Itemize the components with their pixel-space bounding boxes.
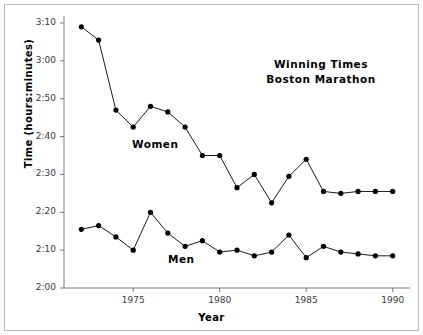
- data-point-women: [79, 24, 84, 29]
- data-point-women: [165, 109, 170, 114]
- data-point-men: [373, 253, 378, 258]
- data-point-women: [373, 189, 378, 194]
- data-point-men: [79, 227, 84, 232]
- chart-title-line-2: Boston Marathon: [246, 72, 396, 87]
- x-tick-label: 1990: [373, 295, 413, 305]
- y-tick-label: 2:40: [22, 131, 56, 141]
- data-point-men: [304, 255, 309, 260]
- y-axis-ticks: [60, 23, 64, 288]
- x-tick-label: 1985: [286, 295, 326, 305]
- data-point-women: [183, 125, 188, 130]
- y-tick-label: 2:00: [22, 282, 56, 292]
- data-point-men: [338, 249, 343, 254]
- data-point-men: [356, 251, 361, 256]
- y-tick-label: 2:10: [22, 244, 56, 254]
- data-point-women: [131, 125, 136, 130]
- chart-title-line-1: Winning Times: [246, 57, 396, 72]
- data-point-women: [321, 189, 326, 194]
- y-tick-label: 3:10: [22, 17, 56, 27]
- x-tick-label: 1980: [200, 295, 240, 305]
- data-point-men: [200, 238, 205, 243]
- y-tick-label: 3:00: [22, 55, 56, 65]
- data-point-men: [234, 248, 239, 253]
- data-point-women: [113, 107, 118, 112]
- chart-plot-area: [0, 0, 423, 335]
- data-point-women: [252, 172, 257, 177]
- data-point-men: [390, 253, 395, 258]
- data-point-men: [252, 253, 257, 258]
- data-point-men: [96, 223, 101, 228]
- data-point-men: [269, 249, 274, 254]
- data-point-men: [113, 234, 118, 239]
- y-tick-label: 2:20: [22, 206, 56, 216]
- data-point-men: [183, 244, 188, 249]
- data-point-men: [321, 244, 326, 249]
- y-tick-label: 2:30: [22, 168, 56, 178]
- data-point-men: [131, 248, 136, 253]
- series-label-women: Women: [132, 138, 178, 150]
- data-point-men: [165, 231, 170, 236]
- x-axis-title: Year: [0, 312, 423, 323]
- data-point-women: [356, 189, 361, 194]
- x-tick-label: 1975: [113, 295, 153, 305]
- data-point-women: [286, 174, 291, 179]
- data-point-men: [217, 249, 222, 254]
- data-point-men: [148, 210, 153, 215]
- x-axis-ticks: [133, 288, 393, 292]
- data-point-women: [269, 200, 274, 205]
- data-point-men: [286, 232, 291, 237]
- y-tick-label: 2:50: [22, 93, 56, 103]
- series-line-women: [81, 27, 392, 203]
- data-point-women: [338, 191, 343, 196]
- data-point-women: [234, 185, 239, 190]
- data-point-women: [148, 104, 153, 109]
- data-point-women: [217, 153, 222, 158]
- data-point-women: [96, 37, 101, 42]
- chart-title: Winning Times Boston Marathon: [246, 57, 396, 87]
- data-point-women: [200, 153, 205, 158]
- data-point-women: [304, 157, 309, 162]
- data-point-women: [390, 189, 395, 194]
- series-label-men: Men: [168, 253, 195, 265]
